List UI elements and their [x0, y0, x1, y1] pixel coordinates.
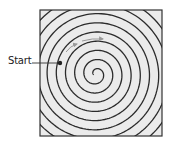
spiral-figure: [0, 0, 171, 147]
start-dot-icon: [58, 61, 62, 65]
start-label: Start: [8, 55, 31, 67]
